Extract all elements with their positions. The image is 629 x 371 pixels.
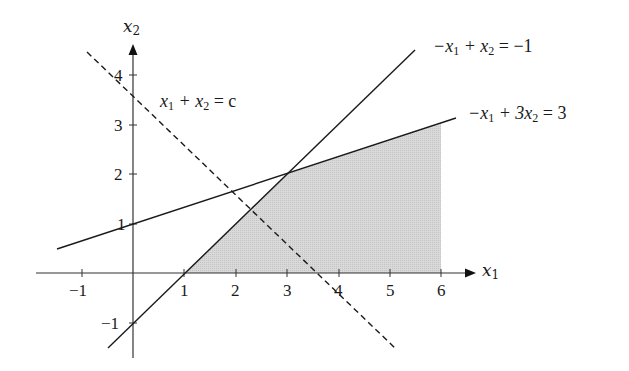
y-tick-label: 2 bbox=[114, 166, 123, 183]
constraint-2-label: −x1 + 3x2 = 3 bbox=[468, 104, 566, 124]
x-axis-arrow-icon bbox=[465, 269, 476, 278]
x-tick-label: 3 bbox=[283, 282, 292, 299]
objective-label: x1 + x2 = c bbox=[160, 92, 236, 112]
y-tick-label: 3 bbox=[114, 117, 123, 134]
y-tick-label: 4 bbox=[114, 67, 123, 84]
x-axis-label: x1 bbox=[482, 262, 499, 281]
y-axis-label: x2 bbox=[123, 18, 140, 37]
y-axis-arrow-icon bbox=[129, 44, 138, 55]
feasible-region bbox=[184, 124, 441, 273]
y-tick-label: −1 bbox=[101, 315, 119, 332]
plot-canvas bbox=[0, 0, 629, 371]
x-tick-label: 4 bbox=[334, 282, 343, 299]
x-tick-label: 2 bbox=[231, 282, 240, 299]
x-tick-label: 5 bbox=[386, 282, 395, 299]
x-tick-label: 6 bbox=[437, 282, 446, 299]
y-tick-label: 1 bbox=[117, 216, 126, 233]
x-tick-label: 1 bbox=[180, 282, 189, 299]
lp-diagram: x2 x1 −1 1 2 3 4 5 6 4 3 2 1 −1 −x1 + x2… bbox=[0, 0, 629, 371]
constraint-1-label: −x1 + x2 = −1 bbox=[433, 37, 533, 57]
x-tick-label: −1 bbox=[69, 282, 87, 299]
